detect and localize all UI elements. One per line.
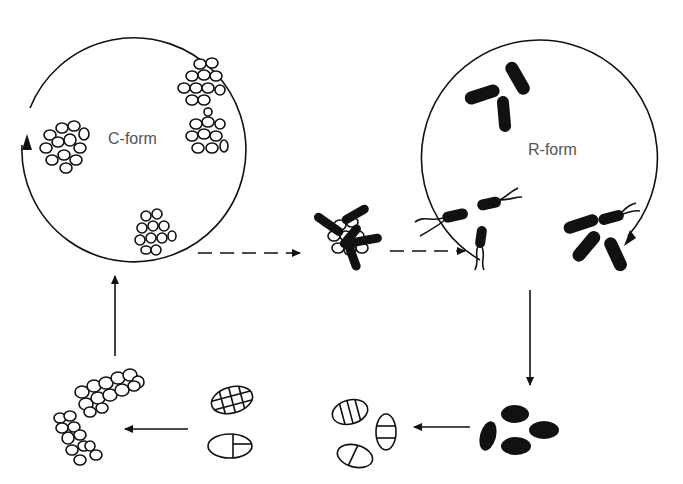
- flagellated-rod: [415, 207, 469, 236]
- rod-cell: [496, 96, 511, 133]
- rod-cell: [463, 83, 501, 106]
- flagellated-rod: [597, 203, 640, 226]
- rod-cell: [503, 59, 532, 97]
- arrowhead-icon: [22, 134, 32, 150]
- flagellated-rod: [475, 225, 488, 270]
- ovoid-dark-cells: [476, 405, 559, 455]
- rod-cell: [570, 228, 603, 264]
- cocci-cluster: [40, 121, 89, 173]
- rod-cell: [602, 235, 629, 273]
- c-form-label: C-form: [108, 130, 157, 147]
- septate-cells: [330, 396, 396, 472]
- muriform-cells: [208, 382, 256, 458]
- life-cycle-diagram: C-form: [0, 0, 683, 484]
- arrowhead-icon: [624, 230, 636, 246]
- flagellated-rod: [476, 188, 522, 211]
- transition-cluster: [312, 203, 382, 272]
- r-form-label: R-form: [528, 141, 577, 158]
- c-form-culture: C-form: [22, 38, 246, 262]
- cocci-cluster: [135, 209, 176, 255]
- r-form-culture: R-form: [415, 40, 657, 273]
- cocci-chains: [54, 369, 144, 465]
- cocci-cluster: [178, 58, 228, 153]
